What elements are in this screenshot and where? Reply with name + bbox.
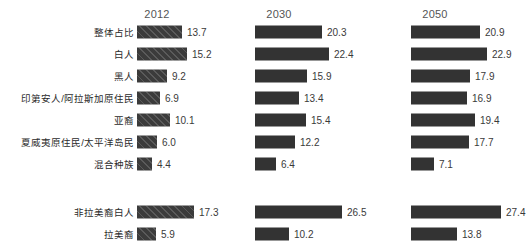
bar	[137, 26, 182, 39]
bar-value-label: 10.1	[175, 115, 194, 126]
bar-value-label: 4.4	[157, 159, 171, 170]
bar	[411, 70, 470, 83]
bar-value-label: 17.7	[474, 137, 493, 148]
category-label: 非拉美裔白人	[74, 207, 134, 218]
grouped-bar-chart: 2012 2030 2050 整体占比白人黑人印第安人/阿拉斯加原住民亚裔夏威夷…	[0, 0, 529, 249]
category-label: 拉美裔	[104, 229, 134, 240]
category-label: 整体占比	[94, 27, 134, 38]
bar	[255, 92, 299, 105]
bar	[255, 228, 289, 241]
bar	[411, 26, 480, 39]
bar-value-label: 19.4	[480, 115, 499, 126]
bar-value-label: 15.2	[192, 49, 211, 60]
bar-value-label: 27.4	[506, 207, 525, 218]
bar-value-label: 15.9	[312, 71, 331, 82]
category-label-column: 整体占比白人黑人印第安人/阿拉斯加原住民亚裔夏威夷原住民/太平洋岛民混合种族非拉…	[0, 0, 134, 249]
category-label: 混合种族	[94, 159, 134, 170]
column-header-2030: 2030	[255, 8, 303, 20]
bar-value-label: 20.3	[327, 27, 346, 38]
bar	[411, 114, 475, 127]
bar	[137, 158, 152, 171]
bar-value-label: 13.4	[304, 93, 323, 104]
bar-value-label: 15.4	[311, 115, 330, 126]
bar	[137, 206, 194, 219]
bar-value-label: 17.3	[199, 207, 218, 218]
bar-value-label: 6.4	[281, 159, 295, 170]
bar-value-label: 13.7	[187, 27, 206, 38]
bar	[255, 114, 306, 127]
bar-value-label: 26.5	[347, 207, 366, 218]
bar	[137, 228, 156, 241]
category-label: 夏威夷原住民/太平洋岛民	[21, 137, 134, 148]
category-label: 印第安人/阿拉斯加原住民	[21, 93, 134, 104]
bar	[255, 136, 295, 149]
column-header-2050: 2050	[411, 8, 459, 20]
bar-value-label: 10.2	[294, 229, 313, 240]
bar	[137, 136, 157, 149]
bar-value-label: 20.9	[485, 27, 504, 38]
bar	[411, 92, 467, 105]
bar	[137, 92, 160, 105]
category-label: 白人	[114, 49, 134, 60]
bar	[255, 70, 307, 83]
bar-value-label: 9.2	[172, 71, 186, 82]
bar-value-label: 6.0	[162, 137, 176, 148]
bar-value-label: 13.8	[462, 229, 481, 240]
bar	[255, 158, 276, 171]
bar	[137, 114, 170, 127]
bar	[411, 158, 434, 171]
bar-value-label: 6.9	[165, 93, 179, 104]
bar-value-label: 22.4	[334, 49, 353, 60]
bar-value-label: 12.2	[300, 137, 319, 148]
category-label: 亚裔	[114, 115, 134, 126]
bar-value-label: 17.9	[475, 71, 494, 82]
bar-value-label: 22.9	[492, 49, 511, 60]
bar	[255, 206, 342, 219]
bar-value-label: 7.1	[439, 159, 453, 170]
bar-value-label: 16.9	[472, 93, 491, 104]
bar	[255, 48, 329, 61]
bar	[411, 136, 469, 149]
bar	[255, 26, 322, 39]
bar	[411, 228, 457, 241]
bar	[137, 48, 187, 61]
bar	[411, 206, 501, 219]
bar	[137, 70, 167, 83]
column-header-2012: 2012	[137, 8, 177, 20]
category-label: 黑人	[114, 71, 134, 82]
bar-value-label: 5.9	[161, 229, 175, 240]
bar	[411, 48, 487, 61]
